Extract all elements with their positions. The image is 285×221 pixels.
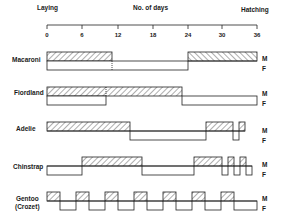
row-adelie <box>47 122 245 140</box>
row-fiordland <box>47 87 257 105</box>
incubation-chart <box>0 0 285 221</box>
row-macaroni <box>47 52 257 70</box>
x-axis <box>47 25 257 29</box>
row-gentoo <box>47 192 257 210</box>
row-chinstrap <box>47 157 252 175</box>
